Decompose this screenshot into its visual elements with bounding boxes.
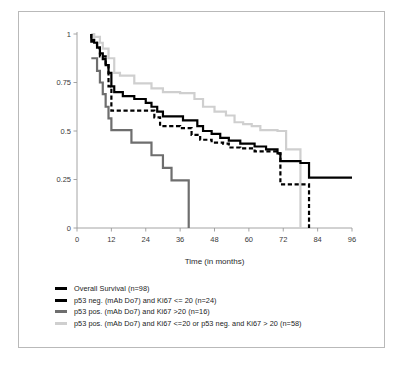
x-tick-label: 96 [348,235,356,244]
legend-label: p53 neg. (mAb Do7) and Ki67 <= 20 (n=24) [74,296,217,305]
chart-legend: Overall Survival (n=98)p53 neg. (mAb Do7… [54,283,374,329]
x-tick-label: 0 [75,235,79,244]
x-tick-label: 36 [176,235,184,244]
legend-label: Overall Survival (n=98) [74,284,150,293]
x-tick-label: 12 [107,235,115,244]
legend-swatch-icon [54,318,68,329]
x-tick-label: 48 [210,235,218,244]
y-tick-label: 0 [67,224,71,233]
y-tick-label: 0.25 [56,175,71,184]
x-tick-label: 60 [245,235,253,244]
y-tick-label: 1 [67,30,71,39]
legend-item: p53 pos. (mAb Do7) and Ki67 >20 (n=16) [54,306,374,318]
legend-swatch-icon [54,295,68,306]
legend-item: p53 neg. (mAb Do7) and Ki67 <= 20 (n=24) [54,295,374,307]
x-axis-title: Time (in months) [185,257,245,266]
series-line-0 [91,34,352,178]
legend-swatch-icon [54,283,68,294]
x-tick-label: 84 [313,235,321,244]
legend-item: Overall Survival (n=98) [54,283,374,295]
x-tick-label: 24 [142,235,150,244]
y-tick-label: 0.75 [56,78,71,87]
legend-label: p53 pos. (mAb Do7) and Ki67 <=20 or p53 … [74,319,302,328]
x-tick-label: 72 [279,235,287,244]
legend-item: p53 pos. (mAb Do7) and Ki67 <=20 or p53 … [54,318,374,330]
legend-label: p53 pos. (mAb Do7) and Ki67 >20 (n=16) [74,307,210,316]
legend-swatch-icon [54,306,68,317]
y-tick-label: 0.5 [61,127,71,136]
